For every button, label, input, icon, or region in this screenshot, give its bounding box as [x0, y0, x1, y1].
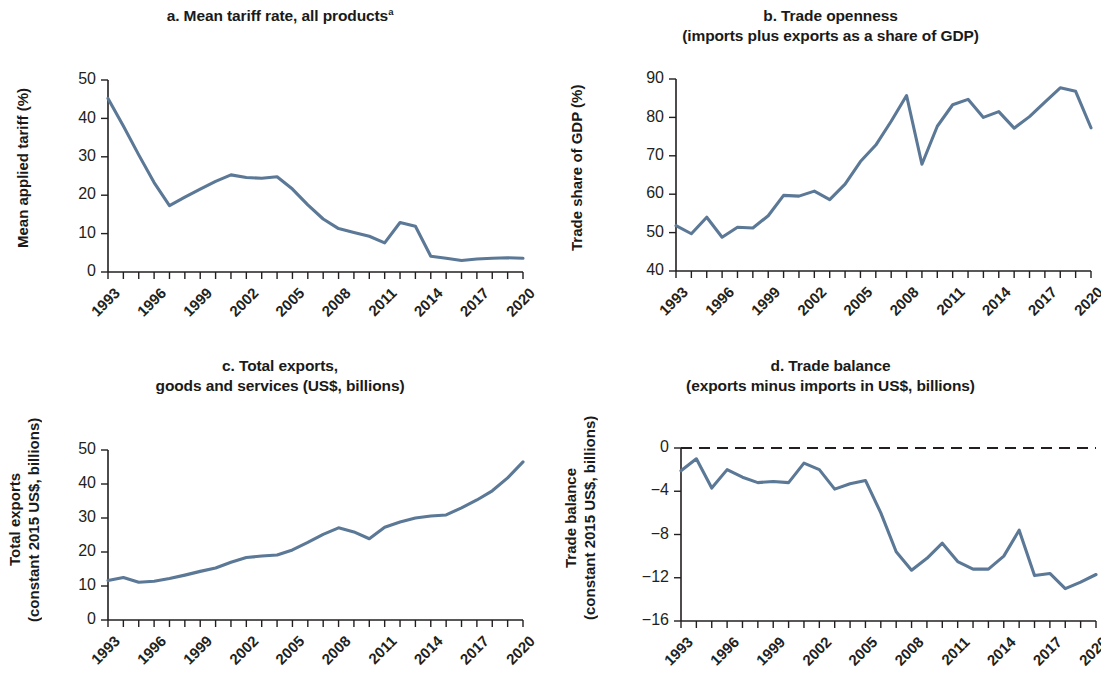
panel-a-y-tick-label: 50 [78, 70, 96, 87]
panel-b-y-tick-label: 40 [646, 261, 664, 278]
panel-a-x-tick-label: 2005 [272, 284, 308, 320]
panel-b-series-line [676, 88, 1091, 237]
panel-d-x-tick-label: 2020 [1076, 633, 1101, 669]
panel-c-y-tick-label: 50 [78, 440, 96, 457]
panel-b-x-tick-label: 2011 [933, 283, 968, 318]
panel-d-y-tick-label: −8 [651, 525, 669, 542]
panel-b-svg: 4050607080901993199619992002200520082011… [560, 0, 1101, 340]
panel-d-x-tick-label: 1996 [707, 633, 743, 669]
panel-a-x-tick-label: 2002 [226, 284, 262, 320]
panel-d-axes: −16−12−8−4019931996199920022005200820112… [642, 438, 1101, 669]
panel-d-x-tick-label: 2002 [799, 633, 835, 669]
panel-d-trade-balance: d. Trade balance (exports minus imports … [560, 350, 1101, 679]
panel-c-svg: 0102030405019931996199920022005200820112… [0, 350, 560, 679]
panel-d-x-tick-label: 1999 [753, 633, 789, 669]
panel-c-x-tick-label: 2014 [410, 632, 446, 668]
panel-a-x-tick-label: 2017 [456, 284, 492, 320]
panel-a-y-tick-label: 0 [87, 262, 96, 279]
panel-d-x-tick-label: 2017 [1029, 633, 1065, 669]
panel-a-plot-area: 0102030405019931996199920022005200820112… [0, 0, 560, 340]
panel-b-y-tick-label: 70 [646, 146, 664, 163]
panel-b-axes: 4050607080901993199619992002200520082011… [646, 69, 1101, 319]
panel-c-x-tick-label: 1996 [134, 632, 170, 668]
panel-c-total-exports: c. Total exports, goods and services (US… [0, 350, 560, 679]
panel-c-x-tick-label: 2002 [226, 632, 262, 668]
panel-a-y-tick-label: 30 [78, 147, 96, 164]
panel-d-y-tick-label: −12 [642, 568, 669, 585]
panel-d-x-tick-label: 2008 [891, 633, 927, 669]
panel-a-x-tick-label: 1999 [180, 284, 216, 320]
panel-a-x-tick-label: 2011 [365, 284, 400, 319]
panel-b-x-tick-label: 1996 [702, 283, 738, 319]
panel-b-y-tick-label: 60 [646, 184, 664, 201]
panel-c-x-tick-label: 2008 [318, 632, 354, 668]
panel-d-y-tick-label: −4 [651, 481, 669, 498]
panel-b-x-tick-label: 2002 [794, 283, 830, 319]
panel-d-x-tick-label: 2005 [845, 633, 881, 669]
panel-a-x-tick-label: 1993 [88, 284, 124, 320]
panel-a-x-tick-label: 1996 [134, 284, 170, 320]
panel-a-y-tick-label: 20 [78, 185, 96, 202]
panel-c-series-line [108, 462, 523, 582]
panel-a-mean-tariff-rate: a. Mean tariff rate, all productsa Mean … [0, 0, 560, 350]
panel-d-x-tick-label: 2011 [938, 633, 973, 668]
panel-b-trade-openness: b. Trade openness (imports plus exports … [560, 0, 1101, 350]
panel-b-x-tick-label: 2017 [1024, 283, 1060, 319]
panel-a-x-tick-label: 2008 [318, 284, 354, 320]
panel-a-svg: 0102030405019931996199920022005200820112… [0, 0, 560, 340]
panel-d-x-tick-label: 1993 [661, 633, 697, 669]
panel-a-series-line [108, 98, 523, 260]
panel-c-x-tick-label: 1999 [180, 632, 216, 668]
panel-d-series-line [681, 459, 1096, 589]
panel-d-x-tick-label: 2014 [983, 633, 1019, 669]
panel-a-x-tick-label: 2014 [410, 284, 446, 320]
panel-c-x-tick-label: 1993 [88, 632, 124, 668]
panel-b-x-tick-label: 2014 [978, 283, 1014, 319]
panel-b-x-tick-label: 2020 [1071, 283, 1101, 319]
panel-b-x-tick-label: 2005 [840, 283, 876, 319]
panel-a-y-tick-label: 40 [78, 109, 96, 126]
panel-c-x-tick-label: 2005 [272, 632, 308, 668]
panel-d-plot-area: −16−12−8−4019931996199920022005200820112… [560, 350, 1101, 679]
panel-a-x-tick-label: 2020 [503, 284, 539, 320]
panel-a-axes: 0102030405019931996199920022005200820112… [78, 70, 538, 320]
panel-c-x-tick-label: 2011 [365, 632, 400, 667]
panel-b-x-tick-label: 1993 [656, 283, 692, 319]
panel-d-svg: −16−12−8−4019931996199920022005200820112… [560, 350, 1101, 679]
panel-c-y-tick-label: 0 [87, 610, 96, 627]
panel-b-plot-area: 4050607080901993199619992002200520082011… [560, 0, 1101, 340]
panel-b-y-tick-label: 90 [646, 69, 664, 86]
panel-c-axes: 0102030405019931996199920022005200820112… [78, 440, 538, 668]
panel-b-x-tick-label: 1999 [748, 283, 784, 319]
panel-b-y-tick-label: 50 [646, 223, 664, 240]
panel-c-y-tick-label: 20 [78, 542, 96, 559]
panel-d-y-tick-label: 0 [660, 438, 669, 455]
trade-indicators-figure: a. Mean tariff rate, all productsa Mean … [0, 0, 1101, 679]
panel-b-x-tick-label: 2008 [886, 283, 922, 319]
panel-c-y-tick-label: 10 [78, 576, 96, 593]
panel-c-x-tick-label: 2017 [456, 632, 492, 668]
panel-c-y-tick-label: 40 [78, 474, 96, 491]
panel-c-y-tick-label: 30 [78, 508, 96, 525]
panel-c-x-tick-label: 2020 [503, 632, 539, 668]
panel-a-y-tick-label: 10 [78, 224, 96, 241]
panel-d-y-tick-label: −16 [642, 611, 669, 628]
panel-c-plot-area: 0102030405019931996199920022005200820112… [0, 350, 560, 679]
panel-b-y-tick-label: 80 [646, 108, 664, 125]
